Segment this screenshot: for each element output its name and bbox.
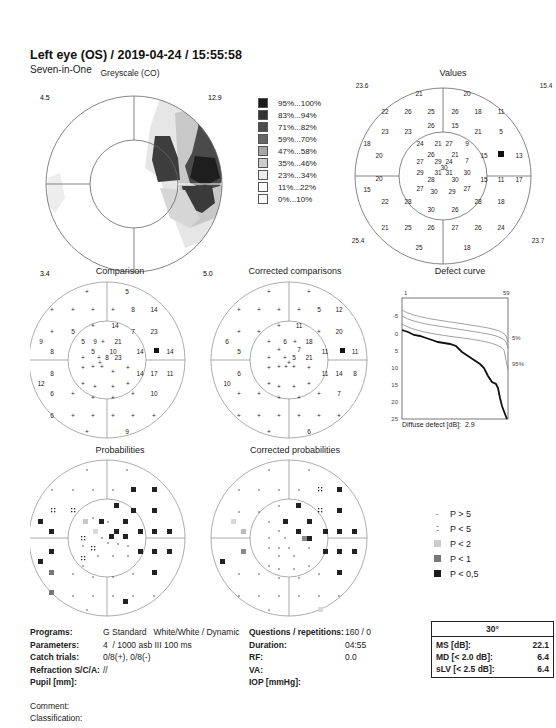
val-label-tl: 23.6 — [356, 82, 369, 89]
svg-text:5: 5 — [499, 128, 503, 135]
svg-text:21: 21 — [415, 90, 423, 97]
svg-text:11: 11 — [322, 348, 329, 355]
svg-text:10: 10 — [223, 380, 231, 387]
svg-text:14: 14 — [166, 348, 174, 355]
svg-text:12: 12 — [335, 306, 343, 313]
svg-text:20: 20 — [391, 399, 398, 405]
svg-text:+: + — [317, 390, 321, 397]
legend-row: 71%...82% — [258, 121, 321, 133]
svg-text:9: 9 — [465, 140, 469, 147]
svg-text:+: + — [50, 306, 54, 313]
svg-text:27: 27 — [416, 185, 424, 192]
svg-text:+: + — [91, 322, 95, 329]
svg-text:-5: -5 — [393, 313, 399, 319]
svg-text:26: 26 — [451, 206, 459, 213]
svg-text:28: 28 — [404, 198, 412, 205]
val-label-br: 23.7 — [532, 237, 545, 244]
info-row-refraction: Refraction S/C/A:// — [30, 664, 240, 677]
values-title: Values — [378, 68, 528, 78]
svg-text:+: + — [111, 394, 115, 401]
svg-text:14: 14 — [136, 348, 144, 355]
four-dots-icon: ⁚⁚ — [430, 525, 444, 533]
legend-label: P < 2 — [450, 539, 471, 549]
svg-text:15: 15 — [391, 382, 398, 388]
svg-text:27: 27 — [451, 224, 459, 231]
svg-text:23: 23 — [150, 328, 158, 335]
svg-text:+: + — [284, 363, 288, 370]
svg-text:26: 26 — [404, 108, 412, 115]
svg-text:27: 27 — [463, 185, 471, 192]
svg-text:11: 11 — [498, 108, 505, 115]
svg-text:7: 7 — [131, 328, 135, 335]
legend-label: P < 1 — [450, 554, 471, 564]
svg-text:18: 18 — [497, 198, 505, 205]
values-plot: 2120 222625261811 23232615215 182421279 … — [350, 78, 556, 278]
svg-text:+: + — [297, 394, 301, 401]
svg-text:6: 6 — [307, 428, 311, 435]
svg-text:26: 26 — [474, 224, 482, 231]
svg-text:7: 7 — [465, 157, 469, 164]
svg-text:9: 9 — [39, 338, 43, 345]
stats-label: MS [dB]: — [436, 639, 471, 651]
corrected-probabilities-plot — [210, 456, 370, 620]
svg-text:18: 18 — [363, 140, 371, 147]
val-label-tr: 15.4 — [540, 82, 553, 89]
svg-text:30: 30 — [463, 169, 471, 176]
comparison-title: Comparison — [50, 266, 190, 276]
svg-text:25: 25 — [415, 244, 423, 251]
svg-text:5: 5 — [317, 306, 321, 313]
svg-text:5: 5 — [237, 348, 241, 355]
probabilities-title: Probabilities — [50, 445, 190, 455]
svg-text:+: + — [267, 338, 271, 345]
exam-info-mid: Questions / repetitions:160 / 0 Duration… — [249, 626, 371, 689]
svg-text:+: + — [267, 354, 271, 361]
svg-text:11: 11 — [352, 348, 359, 355]
svg-text:+: + — [297, 412, 301, 419]
p95-label: 95% — [512, 361, 525, 367]
svg-text:+: + — [307, 364, 311, 371]
svg-text:28: 28 — [474, 198, 482, 205]
svg-text:+: + — [257, 390, 261, 397]
svg-text:14: 14 — [335, 370, 343, 377]
legend-swatch — [258, 122, 268, 132]
svg-text:20: 20 — [463, 90, 471, 97]
svg-text:29: 29 — [448, 188, 456, 195]
svg-text:20: 20 — [375, 152, 383, 159]
svg-text:14: 14 — [136, 370, 144, 377]
svg-text:+: + — [277, 383, 281, 390]
corrected-comparisons-title: Corrected comparisons — [220, 266, 370, 276]
svg-text:17: 17 — [515, 176, 523, 183]
svg-text:+: + — [237, 328, 241, 335]
svg-text:31: 31 — [445, 169, 453, 176]
svg-text:+: + — [100, 363, 104, 370]
svg-text:+: + — [277, 346, 281, 353]
svg-text:+: + — [91, 306, 95, 313]
legend-swatch — [258, 158, 268, 168]
legend-label: P > 5 — [450, 509, 471, 519]
stats-header: 30° — [432, 622, 553, 637]
svg-text:20: 20 — [335, 328, 343, 335]
svg-text:8: 8 — [105, 354, 109, 361]
svg-text:+: + — [267, 364, 271, 371]
greyscale-plot: 4.5 12.9 3.4 5.0 — [20, 78, 250, 288]
info-value: 0/8(+), 0/8(-) — [103, 652, 150, 662]
svg-text:8: 8 — [50, 348, 54, 355]
svg-text:30: 30 — [427, 206, 435, 213]
dot-icon: · — [430, 509, 444, 519]
info-row-parameters: Parameters:4 / 1000 asb III 100 ms — [30, 639, 240, 652]
legend-row: 47%...58% — [258, 145, 321, 157]
svg-text:+: + — [307, 288, 311, 295]
legend-row-p5less: ⁚⁚P < 5 — [430, 521, 479, 536]
svg-text:21: 21 — [381, 224, 389, 231]
svg-text:25: 25 — [404, 224, 412, 231]
svg-text:5: 5 — [125, 288, 129, 295]
dark-square-icon — [430, 569, 444, 579]
info-row-programs: Programs:G Standard White/White / Dynami… — [30, 626, 240, 639]
svg-text:29: 29 — [416, 169, 424, 176]
diffuse-defect-label: Diffuse defect [dB]: — [402, 421, 461, 428]
svg-text:14: 14 — [111, 322, 119, 329]
legend-row-p1: P < 1 — [430, 551, 479, 566]
legend-row: 83%...94% — [258, 109, 321, 121]
legend-row: 0%...10% — [258, 193, 321, 205]
svg-text:7: 7 — [337, 390, 341, 397]
